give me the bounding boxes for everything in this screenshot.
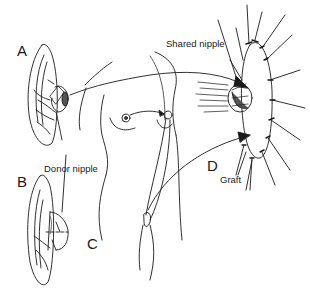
panel-label-c: C [87, 236, 98, 251]
panel-a-breast-drawing [28, 44, 68, 145]
panel-label-d: D [207, 158, 218, 173]
shared-nipple-label: Shared nipple [166, 39, 225, 49]
arrows [70, 56, 250, 210]
illustration-drawing [0, 0, 310, 292]
panel-label-b: B [17, 174, 27, 189]
donor-nipple-label: Donor nipple [44, 164, 98, 174]
panel-b-breast-drawing [28, 175, 68, 285]
medical-illustration: A B C D Shared nipple Donor nipple Graft [0, 0, 310, 292]
graft-label: Graft [220, 175, 241, 185]
panel-label-a: A [17, 43, 27, 58]
